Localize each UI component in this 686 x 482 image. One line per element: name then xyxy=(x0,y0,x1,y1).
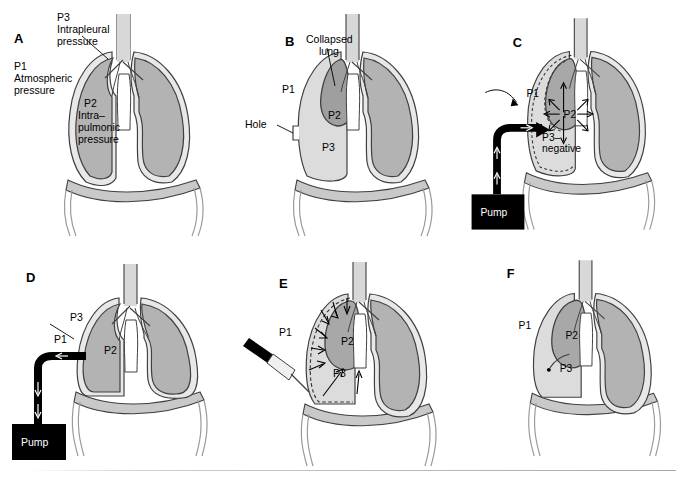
abdominal-wall-right xyxy=(427,188,432,236)
abdominal-wall-left xyxy=(529,403,535,456)
panel-b: B Collapsed lung P1 Hole P2 P3 xyxy=(229,0,458,238)
chest-wall-hole xyxy=(293,126,299,140)
abdominal-wall-right-2 xyxy=(196,400,201,456)
scalpel xyxy=(243,338,309,482)
p2-label-line2: Intra– xyxy=(78,109,105,121)
panel-letter-e: E xyxy=(279,276,288,291)
hole-label-b: Hole xyxy=(245,118,267,130)
trachea-fill xyxy=(574,18,587,59)
p2-label-line1: P2 xyxy=(84,97,97,109)
abdominal-wall-left-2 xyxy=(70,190,76,236)
abdominal-wall-left xyxy=(301,414,307,466)
abdominal-wall-right xyxy=(656,401,661,456)
p2-label-line3: pulmonic xyxy=(78,121,120,133)
p1-label-b: P1 xyxy=(282,83,295,95)
panel-letter-a: A xyxy=(14,31,24,46)
diaphragm xyxy=(295,180,429,202)
scalpel-blade xyxy=(267,354,295,380)
abdominal-wall-left xyxy=(64,190,70,236)
abdominal-wall-left-2 xyxy=(529,183,535,230)
panel-letter-c: C xyxy=(513,35,522,50)
p2-label-b: P2 xyxy=(328,109,341,121)
p1-label-line1: P1 xyxy=(14,60,27,72)
p3-label-e: P3 xyxy=(333,367,346,379)
panel-c: C P1 P2 P3– negative Pump xyxy=(452,0,681,238)
p1-label-f: P1 xyxy=(519,320,532,331)
panel-letter-d: D xyxy=(26,270,35,285)
panel-letter-f: F xyxy=(507,266,515,281)
collapsed-label-line1: Collapsed xyxy=(306,33,353,45)
abdominal-wall-right-2 xyxy=(421,188,426,236)
abdominal-wall-left-2 xyxy=(299,190,305,236)
pump-label-c: Pump xyxy=(480,207,507,218)
p3-neg-line2: negative xyxy=(542,143,581,154)
p1-label-line2: Atmospheric xyxy=(14,72,72,84)
abdominal-wall-right xyxy=(198,188,203,236)
abdominal-wall-left xyxy=(72,402,78,456)
p3-label-d: P3 xyxy=(70,311,83,323)
p1-leader-curve xyxy=(485,90,516,102)
bottom-rule xyxy=(24,470,676,471)
pneumothorax-figure: A P3 Intrapleural pressure P1 Atmospheri… xyxy=(0,0,686,482)
hole-leader xyxy=(277,125,293,133)
panel-letter-b: B xyxy=(285,34,294,49)
trachea-fill xyxy=(117,14,130,62)
panel-a: A P3 Intrapleural pressure P1 Atmospheri… xyxy=(0,0,229,238)
mediastinum xyxy=(575,71,588,126)
mediastinum xyxy=(353,314,366,368)
p3-label-line2: Intrapleural xyxy=(57,23,110,35)
abdominal-wall-left-2 xyxy=(307,414,313,466)
collapsed-label-line2: lung xyxy=(319,45,339,57)
leak-point xyxy=(547,368,551,372)
p2-label-d: P2 xyxy=(104,344,117,356)
abdominal-wall-right-2 xyxy=(650,401,655,456)
panel-d: D P3 P1 P2 Pump xyxy=(0,244,229,482)
thorax-illustration-b xyxy=(277,14,432,236)
p3-label-f: P3 xyxy=(560,363,573,374)
abdominal-wall-right xyxy=(431,412,436,466)
p3-label-line1: P3 xyxy=(57,11,70,23)
diaphragm xyxy=(66,180,200,202)
p1-label-e: P1 xyxy=(279,326,292,338)
mediastinum xyxy=(580,313,593,366)
mediastinum xyxy=(124,320,137,372)
abdominal-wall-left xyxy=(293,190,299,236)
pump-label-d: Pump xyxy=(21,436,49,448)
trachea-fill xyxy=(579,260,592,301)
abdominal-wall-right xyxy=(650,181,655,230)
abdominal-wall-right xyxy=(202,400,207,456)
p3-neg-line1: P3– xyxy=(542,132,561,143)
mediastinum xyxy=(346,74,359,130)
thorax-illustration-f xyxy=(529,260,661,456)
abdominal-wall-left-2 xyxy=(78,402,84,456)
abdominal-wall-left-2 xyxy=(535,403,541,456)
p2-label-line4: pressure xyxy=(78,133,119,145)
panel-f: F P1 P2 P3 xyxy=(452,244,681,482)
abdominal-wall-right-2 xyxy=(425,412,430,466)
thorax-illustration-d xyxy=(12,264,207,460)
p1-label-line3: pressure xyxy=(14,84,55,96)
p2-label-c: P2 xyxy=(564,109,577,120)
diaphragm xyxy=(524,173,651,194)
p2-label-f: P2 xyxy=(566,330,579,341)
p1-label-c: P1 xyxy=(526,88,539,99)
trachea-fill xyxy=(353,262,366,302)
abdominal-wall-right-2 xyxy=(192,188,197,236)
p3-label-b: P3 xyxy=(322,141,335,153)
panel-e: E P1 P2 P3 xyxy=(229,244,458,482)
thorax-illustration-c xyxy=(472,18,655,229)
p1-label-d: P1 xyxy=(54,333,67,345)
p2-label-e: P2 xyxy=(341,335,354,347)
p3-label-line3: pressure xyxy=(57,35,98,47)
trachea-fill xyxy=(124,264,137,306)
abdominal-wall-right-2 xyxy=(644,181,649,230)
